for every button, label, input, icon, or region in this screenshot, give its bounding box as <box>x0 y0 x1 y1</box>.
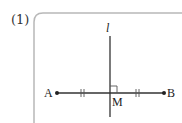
point-a-label: A <box>44 86 53 100</box>
midpoint-label: M <box>112 95 123 109</box>
point-a <box>55 91 59 95</box>
perpendicular-bisector-diagram: l A B M <box>0 0 182 123</box>
point-b-label: B <box>167 86 175 100</box>
point-b <box>162 91 166 95</box>
right-angle-mark <box>110 86 117 93</box>
line-l-label: l <box>106 21 110 35</box>
